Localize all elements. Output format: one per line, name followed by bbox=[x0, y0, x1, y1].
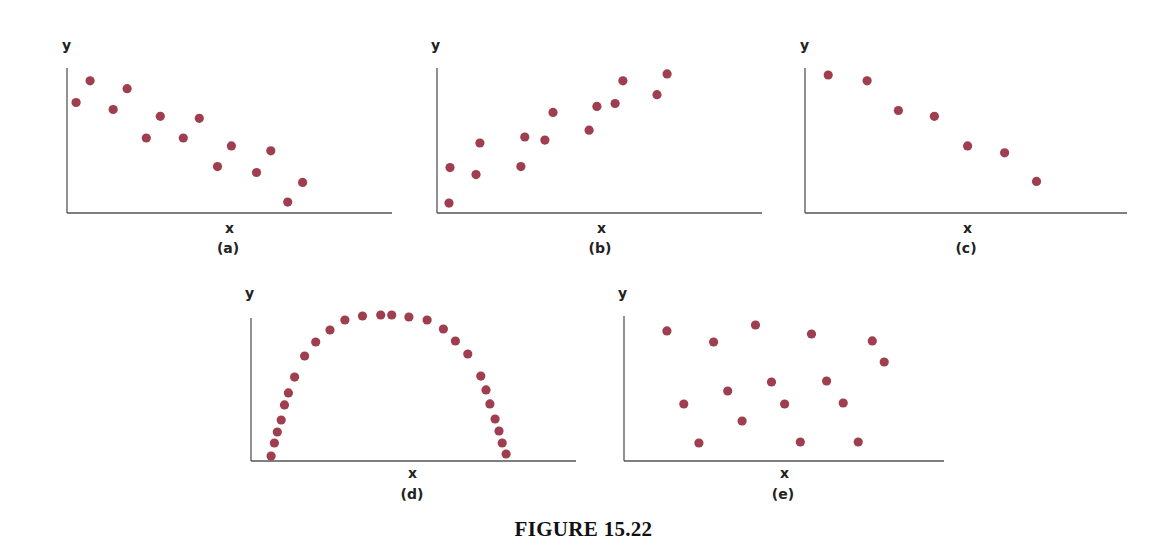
data-point bbox=[709, 337, 718, 346]
data-point bbox=[679, 399, 688, 408]
y-axis-label: y bbox=[618, 286, 627, 300]
data-point bbox=[839, 398, 848, 407]
figure-caption: FIGURE 15.22 bbox=[0, 517, 1167, 542]
data-point bbox=[822, 376, 831, 385]
data-point bbox=[854, 437, 863, 446]
data-point bbox=[796, 437, 805, 446]
data-point bbox=[694, 438, 703, 447]
data-point bbox=[723, 386, 732, 395]
data-point bbox=[780, 399, 789, 408]
data-point bbox=[738, 416, 747, 425]
data-point bbox=[868, 336, 877, 345]
data-point bbox=[880, 357, 889, 366]
panel-label: (e) bbox=[772, 487, 794, 501]
data-point bbox=[662, 326, 671, 335]
data-point bbox=[751, 320, 760, 329]
x-axis-label: x bbox=[780, 466, 789, 480]
plot-area bbox=[0, 0, 1167, 552]
data-point bbox=[767, 377, 776, 386]
data-point bbox=[807, 329, 816, 338]
